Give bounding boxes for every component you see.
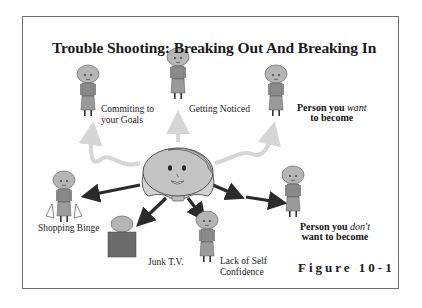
figure-label: Figure 10-1 (298, 260, 326, 276)
arrow-to-dont-want-2 (246, 197, 278, 202)
arrow-to-commiting (91, 133, 140, 165)
arrow-to-confidence (188, 198, 200, 214)
diagram-title: Trouble Shooting: Breaking Out And Break… (52, 39, 376, 57)
person-confidence (196, 211, 218, 262)
label-shopping: Shopping Binge (38, 223, 100, 234)
person-shopping (46, 171, 82, 222)
arrow-to-shopping (90, 185, 140, 195)
arrow-to-want (215, 133, 272, 163)
label-confidence: Lack of Self Confidence (220, 256, 267, 277)
person-junk-tv (108, 216, 136, 257)
arrow-to-dont-want-1 (213, 185, 236, 195)
label-dont-want: Person you don't want to become (300, 222, 370, 242)
person-dont-want (282, 166, 304, 217)
label-noticed: Getting Noticed (189, 104, 250, 115)
person-want (265, 65, 287, 116)
label-junk-tv: Junk T.V. (148, 257, 184, 268)
arrow-to-junk-tv (143, 198, 166, 220)
center-face (142, 148, 214, 201)
person-commiting (77, 65, 99, 116)
label-want: Person you want to become (297, 103, 366, 123)
label-commiting: Commiting to your Goals (101, 104, 154, 125)
